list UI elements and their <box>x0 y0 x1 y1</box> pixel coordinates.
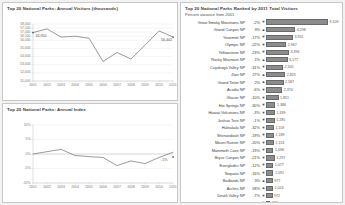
x-tick-label: 2004 <box>71 83 79 87</box>
rank-row[interactable]: Saguaro NP-18%▼661 <box>184 199 339 203</box>
bar-cell: 2,505 <box>266 64 339 72</box>
park-name: Zion NP <box>184 72 247 77</box>
x-tick-label: 2007 <box>113 185 121 189</box>
percent-variance: -23% <box>247 50 261 55</box>
chart2-plot-area: 10%5%0%-5%-10%20012002200320042005200620… <box>3 113 177 204</box>
visitors-value: 1,153 <box>275 141 284 145</box>
rank-row[interactable]: Haleakala NP-32%▼1,159 <box>184 124 339 132</box>
visitors-bar <box>266 148 273 153</box>
rank-row[interactable]: Arches NP58%▲1,024 <box>184 184 339 192</box>
park-name: Shenandoah NP <box>184 133 247 138</box>
rank-row[interactable]: Yosemite NP-17%▼3,951 <box>184 33 339 41</box>
rank-row[interactable]: Grand Teton NP2%▲2,587 <box>184 79 339 87</box>
visitors-bar <box>266 118 275 123</box>
park-name: Hot Springs NP <box>184 103 247 108</box>
bar-cell: 9,109 <box>266 18 339 26</box>
visitors-bar <box>266 87 282 92</box>
visitors-value: 3,177 <box>289 58 298 62</box>
rank-row[interactable]: Death Valley NP-7%▼972 <box>184 192 339 200</box>
y-tick-label: 56,000 <box>3 38 31 42</box>
visitors-value: 1,285 <box>276 118 285 122</box>
park-name: Arches NP <box>184 186 247 191</box>
rank-row[interactable]: Olympic NP-22%▼2,967 <box>184 41 339 49</box>
rank-row[interactable]: Rocky Mountain NP1%▲3,177 <box>184 56 339 64</box>
percent-variance: 58% <box>247 186 261 191</box>
percent-variance: -32% <box>247 125 261 130</box>
percent-variance: -17% <box>247 35 261 40</box>
rank-row[interactable]: Bryce Canyon NP-21%▼1,297 <box>184 154 339 162</box>
park-name: Yosemite NP <box>184 35 247 40</box>
rank-row[interactable]: Acadia NP-6%▼2,374 <box>184 86 339 94</box>
percent-variance: -12% <box>247 163 261 168</box>
visitors-value: 1,024 <box>274 186 283 190</box>
park-name: Rocky Mountain NP <box>184 57 247 62</box>
percent-variance: -10% <box>247 95 261 100</box>
bar-cell: 1,851 <box>266 94 339 102</box>
rank-row[interactable]: Badlands NP3%▲977 <box>184 177 339 185</box>
data-point-label: 56,950 <box>36 34 47 38</box>
rank-subtitle: Percent variance from 2001 <box>181 12 342 18</box>
visitors-value: 2,825 <box>287 73 296 77</box>
bar-cell: 1,285 <box>266 116 339 124</box>
rank-row-list: Great Smoky Mountains NP-2%▼9,109Grand C… <box>181 18 342 203</box>
park-name: Joshua Tree NP <box>184 118 247 123</box>
rank-row[interactable]: Great Smoky Mountains NP-2%▼9,109 <box>184 18 339 26</box>
park-name: Glacier NP <box>184 95 247 100</box>
rank-row[interactable]: Zion NP27%▲2,825 <box>184 71 339 79</box>
bar-cell: 1,386 <box>266 101 339 109</box>
visitors-value: 1,077 <box>275 163 284 167</box>
percent-variance: 3% <box>247 178 261 183</box>
rank-row[interactable]: Hot Springs NP-30%▼1,386 <box>184 101 339 109</box>
visitors-bar <box>266 193 273 198</box>
visitors-bar <box>266 35 293 40</box>
bar-cell: 2,825 <box>266 71 339 79</box>
y-tick-label: -5% <box>3 166 31 170</box>
rank-row[interactable]: Shenandoah NP-19%▼1,189 <box>184 132 339 140</box>
chart2-title: Top 20 National Parks: Annual Index <box>3 104 177 113</box>
percent-variance: -6% <box>247 87 261 92</box>
rank-row[interactable]: Hawaii Volcanoes NP-3%▼1,339 <box>184 109 339 117</box>
rank-row[interactable]: Mount Rainier NP-20%▼1,153 <box>184 139 339 147</box>
visitors-bar <box>266 163 273 168</box>
park-name: Badlands NP <box>184 178 247 183</box>
park-name: Haleakala NP <box>184 125 247 130</box>
rank-row[interactable]: Sequoia NP-16%▼1,091 <box>184 169 339 177</box>
bar-cell: 661 <box>266 199 339 203</box>
percent-variance: -20% <box>247 140 261 145</box>
bar-cell: 1,153 <box>266 139 339 147</box>
bar-cell: 4,298 <box>266 26 339 34</box>
y-tick-label: 10% <box>3 123 31 127</box>
left-column: Top 20 National Parks: Annual Visitors (… <box>2 2 178 203</box>
rank-row[interactable]: Yellowstone NP-23%▼3,394 <box>184 48 339 56</box>
bar-cell: 1,096 <box>266 147 339 155</box>
rank-row[interactable]: Everglades NP-12%▼1,077 <box>184 162 339 170</box>
chart1-title: Top 20 National Parks: Annual Visitors (… <box>3 3 177 12</box>
x-tick-label: 2006 <box>99 185 107 189</box>
park-name: Yellowstone NP <box>184 50 247 55</box>
bar-cell: 1,159 <box>266 124 339 132</box>
y-tick-label: 5% <box>3 137 31 141</box>
rank-row[interactable]: Cuyahoga Valley NP-31%▼2,505 <box>184 64 339 72</box>
rank-row[interactable]: Glacier NP-10%▼1,851 <box>184 94 339 102</box>
rank-row[interactable]: Grand Canyon NP3%▲4,298 <box>184 26 339 34</box>
panel-annual-visitors: Top 20 National Parks: Annual Visitors (… <box>2 2 178 101</box>
x-tick-label: 2011 <box>169 185 176 189</box>
bar-cell: 2,587 <box>266 79 339 87</box>
visitors-value: 3,394 <box>291 50 300 54</box>
rank-row[interactable]: Mammoth Cave NP-19%▼1,096 <box>184 147 339 155</box>
y-tick-label: 51,000 <box>3 79 31 83</box>
rank-row[interactable]: Joshua Tree NP-1%▼1,285 <box>184 116 339 124</box>
visitors-bar <box>266 80 284 85</box>
x-tick-label: 2010 <box>155 83 163 87</box>
percent-variance: -1% <box>247 118 261 123</box>
visitors-value: 1,851 <box>280 96 289 100</box>
bar-cell: 972 <box>266 192 339 200</box>
bar-cell: 2,374 <box>266 86 339 94</box>
x-tick-label: 2003 <box>57 83 65 87</box>
percent-variance: -30% <box>247 103 261 108</box>
park-name: Great Smoky Mountains NP <box>184 20 247 25</box>
visitors-bar <box>266 201 270 203</box>
x-tick-label: 2003 <box>57 185 65 189</box>
y-tick-label: 55,000 <box>3 46 31 50</box>
visitors-value: 1,339 <box>277 111 286 115</box>
